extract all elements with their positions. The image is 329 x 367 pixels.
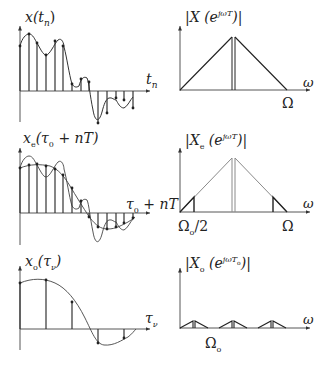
label-omega-2: ω (303, 197, 314, 210)
spectrum-triangle (180, 37, 287, 90)
label-spectrum-2: |Xe (ejωT)| (185, 133, 247, 151)
gray-spectrum-triangle (180, 158, 287, 212)
label-omega-3: ω (303, 313, 314, 326)
time-panel-1 (19, 26, 150, 124)
time-panel-3 (19, 266, 150, 350)
label-xe: xe(τ0 + nT) (23, 131, 98, 149)
label-axis-tau-nu: τν (145, 311, 158, 329)
label-spectrum-1: |X (ejωT)| (185, 10, 242, 24)
spectrum-panel-1 (180, 26, 310, 91)
label-Omega-2: Ω (282, 219, 294, 233)
spectrum-panel-2 (180, 148, 310, 213)
figure-canvas (0, 0, 329, 367)
bold-edge-left (180, 197, 194, 212)
sample-stems (20, 34, 133, 123)
spectrum-panel-3 (180, 268, 310, 329)
label-omega-1: ω (303, 76, 314, 89)
label-axis-tau0-nT: τ0 + nT (126, 197, 178, 215)
sample-stems (20, 280, 124, 343)
signal-curve (20, 279, 136, 345)
label-axis-tn: tn (146, 72, 157, 90)
label-Omega-1: Ω (282, 96, 294, 110)
label-x-tn: x(tn) (25, 10, 55, 28)
label-Omega-o: Ωo (205, 336, 221, 354)
label-Omega-o-half: Ωo/2 (178, 219, 208, 237)
label-xo: xo(τν) (25, 254, 61, 272)
label-spectrum-3: |Xo (ejωTo)| (185, 256, 251, 274)
sample-dots (19, 33, 135, 125)
bold-edge-right (273, 197, 287, 212)
periodic-spectra (180, 321, 286, 328)
